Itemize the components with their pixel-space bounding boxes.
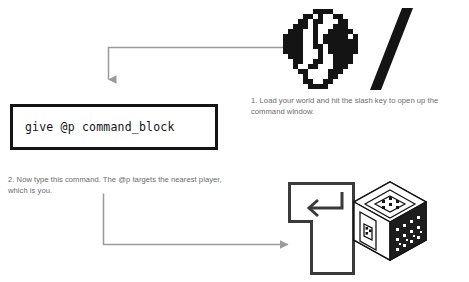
command-text: give @p command_block xyxy=(25,120,175,134)
enter-key-icon xyxy=(287,181,356,276)
globe-icon xyxy=(283,8,363,90)
step-2-caption: 2. Now type this command. The @p targets… xyxy=(8,174,230,196)
slash-key-icon xyxy=(368,6,414,92)
command-input-box[interactable]: give @p command_block xyxy=(10,104,218,150)
tutorial-diagram: give @p command_block 1. Load your world… xyxy=(0,0,469,282)
arrow-command-box-to-enter-key xyxy=(104,194,289,245)
command-block-cube-icon xyxy=(351,180,429,262)
step-1-caption: 1. Load your world and hit the slash key… xyxy=(251,95,463,117)
arrow-globe-to-command-box xyxy=(109,48,286,80)
